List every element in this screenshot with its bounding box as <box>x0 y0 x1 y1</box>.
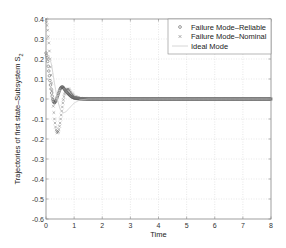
y-tick-label: 0 <box>40 96 44 103</box>
y-tick-label: 0.1 <box>34 76 44 83</box>
y-tick-label: -0.5 <box>32 196 44 203</box>
y-tick-label: 0.2 <box>34 56 44 63</box>
legend-label: Ideal Mode <box>191 42 228 51</box>
y-tick-label: -0.6 <box>32 216 44 223</box>
x-tick-label: 4 <box>157 222 161 229</box>
x-axis-title: Time <box>150 230 166 239</box>
y-tick-label: -0.2 <box>32 136 44 143</box>
x-tick-label: 5 <box>185 222 189 229</box>
x-tick-label: 0 <box>44 222 48 229</box>
x-tick-label: 1 <box>72 222 76 229</box>
y-tick-label: 0.3 <box>34 36 44 43</box>
x-tick-label: 2 <box>100 222 104 229</box>
chart: 0123456780.40.30.20.10-0.1-0.2-0.3-0.4-0… <box>0 0 286 248</box>
legend-label: Failure Mode–Nominal <box>191 32 267 41</box>
y-axis-title: Trajectories of first state–Subsystem S2 <box>13 53 24 184</box>
y-tick-label: -0.3 <box>32 156 44 163</box>
legend: Failure Mode–ReliableFailure Mode–Nomina… <box>168 19 271 54</box>
x-tick-label: 8 <box>269 222 273 229</box>
x-tick-label: 7 <box>241 222 245 229</box>
x-tick-label: 3 <box>128 222 132 229</box>
y-tick-label: -0.4 <box>32 176 44 183</box>
y-tick-label: -0.1 <box>32 116 44 123</box>
y-tick-label: 0.4 <box>34 16 44 23</box>
legend-label: Failure Mode–Reliable <box>191 23 266 32</box>
x-tick-label: 6 <box>213 222 217 229</box>
